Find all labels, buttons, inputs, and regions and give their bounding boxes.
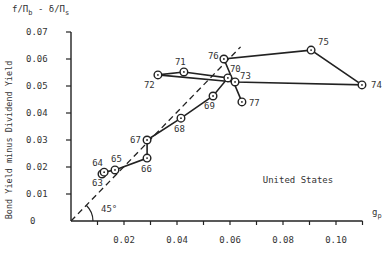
y-tick-label: 0.01 <box>26 189 48 199</box>
x-tick-label: 0.06 <box>219 235 241 245</box>
y-tick-label: 0.04 <box>26 108 48 118</box>
x-tick-label: 0.04 <box>166 235 188 245</box>
point-label-64: 64 <box>92 158 103 168</box>
angle-arc <box>87 206 94 222</box>
point-label-63: 63 <box>92 178 103 188</box>
point-label-74: 74 <box>371 80 382 90</box>
y-tick-label: 0.02 <box>26 162 48 172</box>
data-point-center <box>212 95 214 97</box>
y-axis-label: Bond Yield minus Dividend Yield <box>4 61 14 220</box>
country-annotation: United States <box>263 175 333 185</box>
y-tick-label: 0.05 <box>26 81 48 91</box>
data-point-center <box>361 84 363 86</box>
data-point-center <box>183 71 185 73</box>
data-point-center <box>146 139 148 141</box>
x-tick-label: 0.08 <box>272 235 294 245</box>
data-point-center <box>103 171 105 173</box>
y-tick-label: 0 <box>30 216 35 226</box>
data-point-center <box>114 169 116 171</box>
point-label-67: 67 <box>130 135 141 145</box>
data-point-center <box>146 157 148 159</box>
data-point-center <box>310 49 312 51</box>
point-label-77: 77 <box>249 98 260 108</box>
data-point-center <box>223 58 225 60</box>
data-point-center <box>234 81 236 83</box>
data-point-center <box>241 101 243 103</box>
point-label-72: 72 <box>144 80 155 90</box>
y-tick-label: 0.07 <box>26 27 48 37</box>
x-tick-label: 0.02 <box>113 235 135 245</box>
x-axis-label: gp <box>372 207 382 220</box>
y-tick-label: 0.06 <box>26 54 48 64</box>
x-tick-label: 0.10 <box>325 235 347 245</box>
data-point-center <box>180 117 182 119</box>
y-tick-label: 0.03 <box>26 135 48 145</box>
angle-label: 45° <box>101 204 117 214</box>
data-point-center <box>157 74 159 76</box>
point-label-76: 76 <box>208 51 219 61</box>
point-label-69: 69 <box>204 101 215 111</box>
point-label-65: 65 <box>111 154 122 164</box>
point-label-66: 66 <box>141 164 152 174</box>
chart-title: f/Πb - δ/Πs <box>12 4 69 17</box>
chart: 00.010.020.030.040.050.060.070.020.040.0… <box>0 0 391 254</box>
data-point-center <box>227 77 229 79</box>
point-label-68: 68 <box>174 124 185 134</box>
point-label-71: 71 <box>175 57 186 67</box>
point-label-75: 75 <box>318 37 329 47</box>
point-label-73: 73 <box>240 71 251 81</box>
